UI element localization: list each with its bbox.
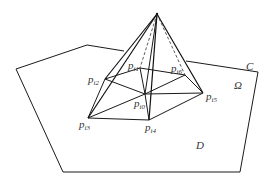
pyramid-visible-edges: [88, 14, 203, 120]
apex-vertex: [156, 13, 158, 15]
label-p-i5: pi5: [205, 90, 217, 104]
label-p-i1: pi1: [127, 59, 139, 73]
label-p-i4: pi4: [144, 121, 156, 135]
label-domain-d: D: [195, 139, 204, 151]
label-omega: Ω: [234, 79, 242, 91]
label-boundary-c: C: [246, 60, 254, 72]
pyramid-diagram: pi2 pi1 pi6 pi5 pi0 pi4 pi3 C Ω D: [0, 0, 271, 184]
label-p-i6: pi6: [170, 62, 182, 76]
label-p-i2: pi2: [87, 73, 99, 87]
label-p-i3: pi3: [78, 118, 90, 132]
label-p-i0: pi0: [133, 97, 145, 111]
